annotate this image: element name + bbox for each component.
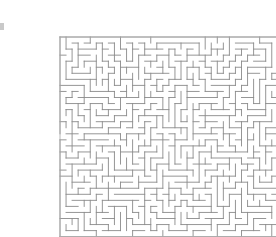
page-root bbox=[0, 0, 276, 237]
maze-figure bbox=[40, 16, 276, 237]
left-edge-tick-mark bbox=[0, 23, 4, 30]
maze-canvas bbox=[40, 16, 276, 237]
